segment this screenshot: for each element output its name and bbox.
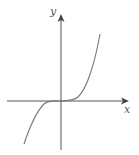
y-axis-label: y <box>50 6 56 17</box>
cubic-curve <box>24 34 100 144</box>
x-axis-label: x <box>124 104 130 115</box>
cubic-graph: y x <box>0 0 139 155</box>
